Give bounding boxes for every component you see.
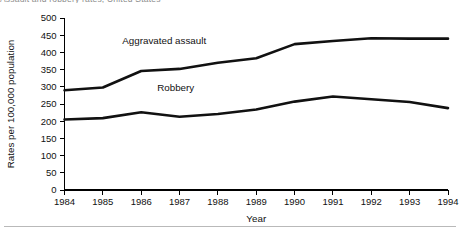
y-tick-label: 100 [41, 150, 57, 161]
y-tick-label: 150 [41, 133, 57, 144]
y-tick-label: 250 [41, 98, 57, 109]
x-tick-label: 1988 [207, 196, 228, 207]
y-tick-label: 350 [41, 64, 57, 75]
y-tick-label: 0 [51, 184, 56, 195]
x-tick-label: 1993 [399, 196, 420, 207]
series-label-aggravated-assault: Aggravated assault [122, 35, 206, 46]
series-line-aggravated-assault [65, 38, 449, 90]
x-tick-label: 1992 [361, 196, 382, 207]
y-tick-label: 500 [41, 12, 57, 23]
x-tick-label: 1991 [322, 196, 343, 207]
y-tick-label: 50 [46, 167, 57, 178]
y-axis-title: Rates per 100,000 population [5, 40, 16, 169]
y-tick-label: 450 [41, 30, 57, 41]
y-tick-label: 400 [41, 47, 57, 58]
x-tick-label: 1987 [169, 196, 190, 207]
x-axis-title: Year [246, 213, 267, 224]
series-label-robbery: Robbery [157, 82, 194, 93]
chart-canvas: 0501001502002503003504004505001984198519… [0, 0, 459, 236]
x-tick-label: 1986 [131, 196, 152, 207]
x-tick-label: 1989 [246, 196, 267, 207]
series-line-robbery [65, 96, 449, 119]
x-tick-label: 1994 [437, 196, 458, 207]
x-tick-label: 1990 [284, 196, 305, 207]
y-tick-label: 200 [41, 116, 57, 127]
footer-divider [4, 226, 456, 227]
x-tick-label: 1984 [54, 196, 75, 207]
y-tick-label: 300 [41, 81, 57, 92]
line-chart-figure: 0501001502002503003504004505001984198519… [0, 0, 459, 236]
x-tick-label: 1985 [92, 196, 113, 207]
